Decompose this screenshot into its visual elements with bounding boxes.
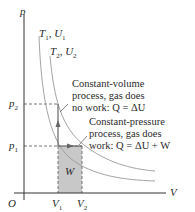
p2-label: p2 — [9, 98, 18, 112]
constant-volume-annotation: Constant-volume process, gas does no wor… — [72, 78, 145, 114]
isotherm-t2-label: T2, U2 — [50, 46, 77, 60]
origin-label: O — [8, 198, 16, 209]
v2-label: V2 — [77, 198, 87, 212]
leader-line-volume — [60, 104, 68, 112]
v-axis-label: V — [170, 187, 177, 198]
p-axis-label: p — [20, 6, 26, 17]
constant-pressure-annotation: Constant-pressure process, gas does work… — [89, 116, 170, 152]
p1-label: p1 — [9, 140, 18, 154]
v1-label: V1 — [52, 198, 62, 212]
work-label: W — [65, 166, 74, 177]
isotherm-t1-label: T1, U1 — [39, 28, 66, 42]
up-arrow-icon — [56, 120, 61, 127]
